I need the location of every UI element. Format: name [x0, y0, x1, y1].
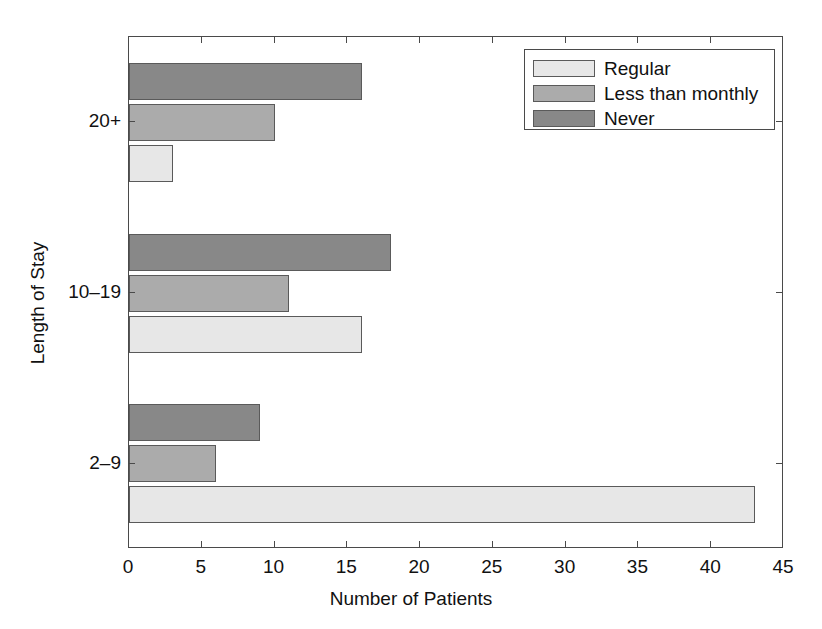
- x-tick-label: 10: [263, 556, 284, 578]
- bar-never-20+: [129, 63, 362, 100]
- legend-item-never: Never: [533, 106, 766, 130]
- bar-chart-figure: 051015202530354045 2–910–1920+ Number of…: [0, 0, 822, 629]
- y-axis-title: Length of Stay: [27, 203, 49, 403]
- legend-label: Never: [604, 109, 655, 128]
- x-tick-label: 40: [700, 556, 721, 578]
- x-tick-top: [201, 36, 202, 43]
- bar-regular-20+: [129, 145, 173, 182]
- legend-swatch-regular: [533, 60, 595, 77]
- y-tick: [128, 121, 135, 122]
- x-tick-top: [637, 36, 638, 43]
- x-axis-title: Number of Patients: [0, 588, 822, 610]
- legend-swatch-less: [533, 85, 595, 102]
- x-tick-top: [346, 36, 347, 43]
- x-tick-label: 0: [123, 556, 134, 578]
- bar-regular-1019: [129, 316, 362, 353]
- y-tick-right: [776, 121, 783, 122]
- x-tick-label: 15: [336, 556, 357, 578]
- x-tick: [274, 541, 275, 548]
- bar-less-29: [129, 445, 216, 482]
- x-tick-top: [492, 36, 493, 43]
- bar-never-1019: [129, 234, 391, 271]
- x-tick-label: 35: [627, 556, 648, 578]
- x-tick-label: 45: [772, 556, 793, 578]
- x-tick: [201, 541, 202, 548]
- x-tick-label: 25: [481, 556, 502, 578]
- legend-item-less: Less than monthly: [533, 81, 766, 105]
- legend-label: Regular: [604, 59, 671, 78]
- y-tick-label-20+: 20+: [89, 110, 121, 132]
- x-tick-top: [419, 36, 420, 43]
- bar-less-20+: [129, 104, 275, 141]
- y-tick-label-1019: 10–19: [68, 281, 121, 303]
- x-tick-top: [565, 36, 566, 43]
- x-tick-top: [274, 36, 275, 43]
- y-tick-right: [776, 292, 783, 293]
- bar-less-1019: [129, 275, 289, 312]
- y-tick: [128, 292, 135, 293]
- x-tick: [346, 541, 347, 548]
- legend-item-regular: Regular: [533, 56, 766, 80]
- x-tick-label: 5: [195, 556, 206, 578]
- x-tick: [419, 541, 420, 548]
- bar-never-29: [129, 404, 260, 441]
- x-tick: [710, 541, 711, 548]
- y-tick-right: [776, 463, 783, 464]
- x-tick-label: 20: [409, 556, 430, 578]
- bar-regular-29: [129, 486, 755, 523]
- x-tick-top: [710, 36, 711, 43]
- legend-box: RegularLess than monthlyNever: [524, 49, 775, 130]
- y-tick-label-29: 2–9: [89, 452, 121, 474]
- x-tick: [637, 541, 638, 548]
- x-tick: [565, 541, 566, 548]
- x-tick-label: 30: [554, 556, 575, 578]
- x-tick: [492, 541, 493, 548]
- legend-swatch-never: [533, 110, 595, 127]
- y-tick: [128, 463, 135, 464]
- legend-label: Less than monthly: [604, 84, 758, 103]
